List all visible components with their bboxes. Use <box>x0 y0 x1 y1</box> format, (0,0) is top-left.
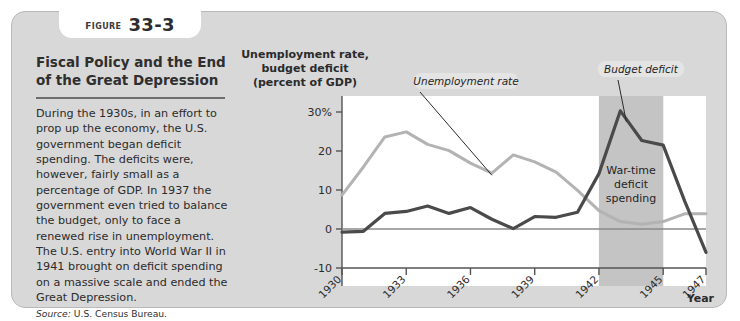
title-divider <box>36 97 225 99</box>
figure-title: Fiscal Policy and the End of the Great D… <box>36 54 231 90</box>
war-band-label-line: spending <box>606 192 656 205</box>
source-text: U.S. Census Bureau. <box>74 308 167 319</box>
figure-tab-word: FIGURE <box>85 17 121 32</box>
unemployment-callout: Unemployment rate <box>413 75 518 87</box>
y-tick-label: 0 <box>325 223 332 236</box>
plot-background-right <box>663 96 706 286</box>
figure-screenshot: FIGURE 33-3 Fiscal Policy and the End of… <box>0 0 740 321</box>
x-tick-label: 1930 <box>316 273 343 300</box>
chart-plot: 30%20100-101930193319361939194219451947U… <box>240 48 720 303</box>
chart-container: Unemployment rate, budget deficit (perce… <box>240 48 720 303</box>
figure-source: Source: U.S. Census Bureau. <box>36 308 231 319</box>
figure-tab: FIGURE 33-3 <box>59 11 201 38</box>
source-label: Source: <box>36 308 71 319</box>
plot-background-left <box>342 96 599 286</box>
y-tick-label: 20 <box>318 145 332 158</box>
figure-card: FIGURE 33-3 Fiscal Policy and the End of… <box>11 11 727 308</box>
figure-body-text: During the 1930s, in an effort to prop u… <box>36 106 231 305</box>
figure-tab-number: 33-3 <box>128 14 174 35</box>
y-tick-label: 30% <box>308 106 332 119</box>
war-band-label-line: deficit <box>614 178 649 191</box>
y-tick-label: 10 <box>318 184 332 197</box>
figure-text-panel: Fiscal Policy and the End of the Great D… <box>36 54 231 319</box>
y-tick-label: -10 <box>314 262 332 275</box>
war-band-label-line: War-time <box>606 164 656 177</box>
budget-deficit-callout: Budget deficit <box>604 63 679 75</box>
